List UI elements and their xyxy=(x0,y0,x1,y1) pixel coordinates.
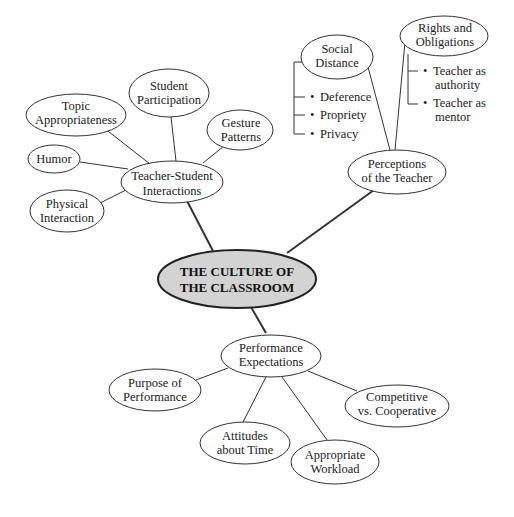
bullet-teacher-mentor-1: Teacher as xyxy=(433,96,486,110)
svg-text:Physical: Physical xyxy=(46,197,89,211)
svg-text:Competitive: Competitive xyxy=(366,390,428,404)
svg-text:of the Teacher: of the Teacher xyxy=(361,171,433,185)
node-gesture-patterns: Gesture Patterns xyxy=(207,110,273,150)
svg-text:Appropriateness: Appropriateness xyxy=(35,113,117,127)
svg-text:Gesture: Gesture xyxy=(222,116,261,130)
bullet-teacher-authority-1: Teacher as xyxy=(433,64,486,78)
node-humor: Humor xyxy=(28,145,80,173)
central-node: THE CULTURE OF THE CLASSROOM xyxy=(158,250,316,308)
node-purpose-of-performance: Purpose of Performance xyxy=(109,369,201,411)
bullet-teacher-mentor-2: mentor xyxy=(435,110,471,124)
svg-text:Attitudes: Attitudes xyxy=(222,429,268,443)
node-attitudes-about-time: Attitudes about Time xyxy=(200,422,290,464)
svg-text:•: • xyxy=(423,64,427,78)
central-node-line1: THE CULTURE OF xyxy=(180,264,294,279)
svg-text:Patterns: Patterns xyxy=(221,130,261,144)
mind-map: THE CULTURE OF THE CLASSROOM Teacher-Stu… xyxy=(0,0,514,517)
svg-text:Workload: Workload xyxy=(311,462,361,476)
bullet-privacy: Privacy xyxy=(320,127,359,141)
svg-text:about Time: about Time xyxy=(217,443,274,457)
svg-text:Topic: Topic xyxy=(62,99,91,113)
svg-text:Interaction: Interaction xyxy=(40,211,95,225)
bullet-deference: Deference xyxy=(320,90,372,104)
svg-text:Performance: Performance xyxy=(123,390,187,404)
svg-text:vs. Cooperative: vs. Cooperative xyxy=(358,404,437,418)
svg-text:Distance: Distance xyxy=(315,56,359,70)
svg-text:Humor: Humor xyxy=(36,152,72,166)
node-appropriate-workload: Appropriate Workload xyxy=(291,440,379,484)
bullet-propriety: Propriety xyxy=(320,108,367,122)
rights-obligations-bullets: • Teacher as authority • Teacher as ment… xyxy=(423,64,486,124)
svg-text:Expectations: Expectations xyxy=(239,355,304,369)
node-social-distance: Social Distance xyxy=(301,35,373,79)
node-competitive-vs-cooperative: Competitive vs. Cooperative xyxy=(345,385,449,427)
svg-text:•: • xyxy=(310,90,314,104)
central-node-line2: THE CLASSROOM xyxy=(180,280,295,295)
node-topic-appropriateness: Topic Appropriateness xyxy=(26,94,126,136)
svg-text:Student: Student xyxy=(150,79,189,93)
node-student-participation: Student Participation xyxy=(129,69,209,117)
svg-text:Teacher-Student: Teacher-Student xyxy=(131,169,213,183)
node-teacher-student-interactions: Teacher-Student Interactions xyxy=(121,161,223,203)
social-distance-bullets: • Deference • Propriety • Privacy xyxy=(310,90,372,141)
svg-text:Participation: Participation xyxy=(137,93,202,107)
svg-text:•: • xyxy=(310,108,314,122)
svg-text:Purpose of: Purpose of xyxy=(128,376,183,390)
svg-text:Rights and: Rights and xyxy=(418,21,473,35)
svg-text:Perceptions: Perceptions xyxy=(368,157,426,171)
svg-text:Obligations: Obligations xyxy=(416,35,474,49)
node-perceptions-of-the-teacher: Perceptions of the Teacher xyxy=(348,150,446,194)
bullet-teacher-authority-2: authority xyxy=(435,78,481,92)
node-physical-interaction: Physical Interaction xyxy=(30,190,104,232)
svg-text:Performance: Performance xyxy=(239,341,303,355)
svg-text:Social: Social xyxy=(321,42,353,56)
node-performance-expectations: Performance Expectations xyxy=(221,335,321,377)
svg-text:Appropriate: Appropriate xyxy=(305,448,366,462)
svg-text:•: • xyxy=(423,96,427,110)
svg-text:•: • xyxy=(310,127,314,141)
node-rights-and-obligations: Rights and Obligations xyxy=(400,16,488,56)
svg-text:Interactions: Interactions xyxy=(142,184,201,198)
